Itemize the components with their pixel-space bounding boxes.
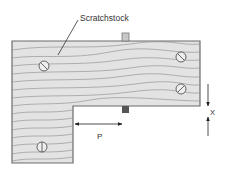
scratchstock-label: Scratchstock bbox=[80, 13, 129, 23]
screw-icon bbox=[37, 142, 47, 152]
screw-icon bbox=[176, 84, 186, 94]
screw-icon bbox=[176, 52, 186, 62]
scratchstock-diagram: Scratchstock P X bbox=[0, 0, 226, 183]
blade-bottom bbox=[122, 106, 129, 113]
screw-icon bbox=[39, 61, 49, 71]
dimension-p-label: P bbox=[97, 132, 102, 141]
dimension-x-label: X bbox=[210, 108, 215, 117]
blade-top bbox=[122, 33, 129, 41]
